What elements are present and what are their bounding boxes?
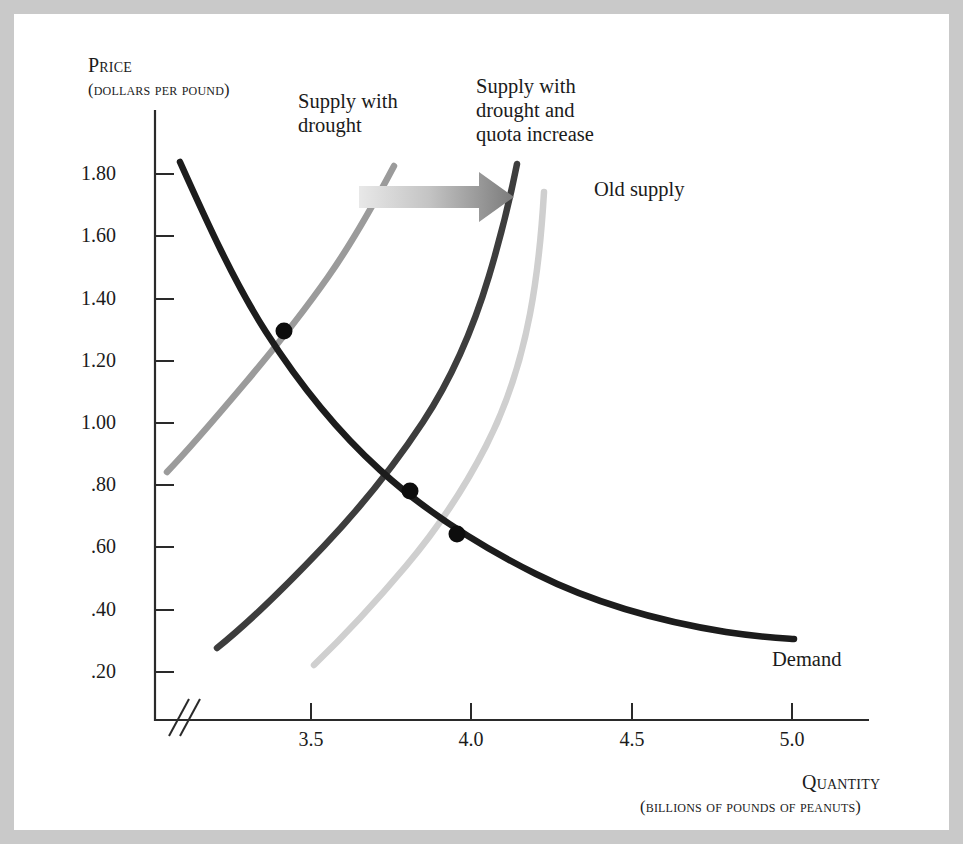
equilibrium-dots [276,323,466,543]
curve-label-supply-drought-quota: Supply with drought and quota increase [476,74,594,147]
y-tick-label-120: 1.20 [46,349,116,373]
y-tick-label-020: .20 [46,660,116,684]
x-axis-ticks [311,703,792,720]
y-tick-label-140: 1.40 [46,287,116,311]
curve-demand [180,162,794,639]
figure-frame: Price (dollars per pound) Quantity (bill… [0,0,963,844]
x-axis-title: Quantity [802,771,880,795]
equilibrium-dot-drought [276,323,293,340]
x-tick-label-50: 5.0 [761,728,823,752]
y-tick-label-180: 1.80 [46,162,116,186]
figure-panel: Price (dollars per pound) Quantity (bill… [14,14,949,830]
y-tick-label-080: .80 [46,473,116,497]
curve-supply-drought-quota [217,164,517,648]
x-tick-label-40: 4.0 [440,728,502,752]
curve-label-supply-drought: Supply with drought [298,89,398,137]
x-tick-label-35: 3.5 [280,728,342,752]
curve-label-old-supply: Old supply [594,177,685,201]
x-tick-label-45: 4.5 [601,728,663,752]
axis-break-mark [169,699,200,736]
y-axis-subtitle: (dollars per pound) [88,80,230,99]
y-tick-label-040: .40 [46,598,116,622]
y-tick-label-060: .60 [46,535,116,559]
curve-old-supply [314,192,544,665]
curve-label-demand: Demand [772,647,841,671]
equilibrium-dot-drought-quota [402,483,419,500]
y-axis-title: Price [88,54,132,78]
y-tick-label-160: 1.60 [46,224,116,248]
y-tick-label-100: 1.00 [46,411,116,435]
y-axis-ticks [155,174,174,672]
equilibrium-dot-original [449,526,466,543]
x-axis-subtitle: (billions of pounds of peanuts) [640,797,861,816]
shift-arrow-icon [359,172,514,222]
